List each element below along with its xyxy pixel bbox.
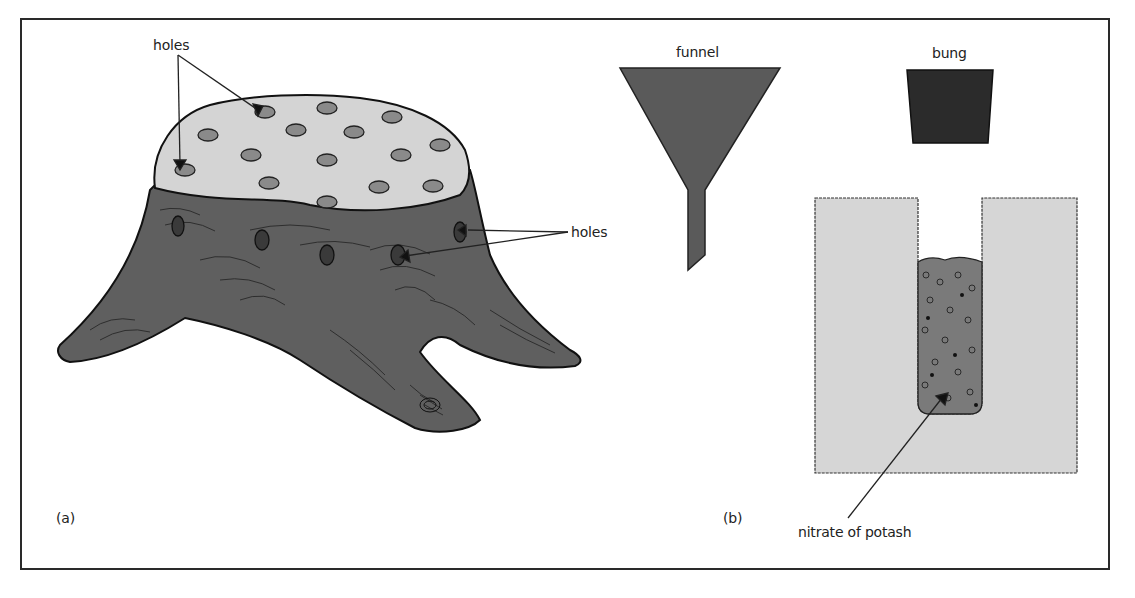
panel-label-a: (a)	[56, 510, 75, 526]
label-holes-side: holes	[571, 224, 607, 240]
bung-shape	[907, 70, 993, 143]
diagram-canvas	[0, 0, 1135, 598]
tree-stump	[58, 95, 580, 432]
label-holes-top: holes	[153, 37, 189, 53]
stump-body	[58, 170, 580, 432]
funnel-shape	[620, 68, 780, 270]
label-funnel: funnel	[676, 44, 719, 60]
panel-label-b: (b)	[723, 510, 742, 526]
label-nitrate: nitrate of potash	[798, 524, 911, 540]
stump-top	[154, 95, 469, 210]
label-bung: bung	[932, 45, 967, 61]
